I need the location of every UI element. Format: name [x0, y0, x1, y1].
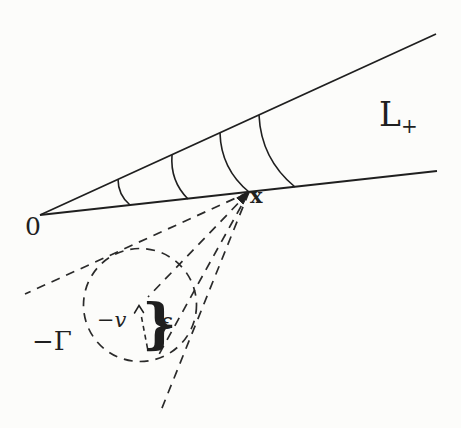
- neg-v-label: −v: [97, 310, 126, 331]
- point-x-label: x: [250, 185, 263, 206]
- diagram-svg: [0, 0, 461, 428]
- figure-canvas: 0 x L+ −Γ −v } ε: [0, 0, 461, 428]
- neg-cone-label: −Γ: [32, 328, 72, 354]
- cone-upper-edge-line: [40, 34, 436, 215]
- cone-label-subscript: +: [401, 114, 418, 138]
- epsilon-label: ε: [161, 311, 173, 333]
- cone-label-main: L: [379, 95, 401, 134]
- epsilon-ball-circle: [84, 249, 197, 362]
- ray-to-center-dashed: [148, 192, 249, 297]
- level-arc-2: [172, 155, 188, 199]
- cone-label: L+: [379, 98, 418, 136]
- level-arc-1: [118, 179, 130, 205]
- cone-lower-edge-line: [40, 171, 437, 215]
- origin-label: 0: [25, 214, 41, 239]
- level-arc-4: [259, 115, 295, 187]
- level-arc-3: [220, 133, 249, 192]
